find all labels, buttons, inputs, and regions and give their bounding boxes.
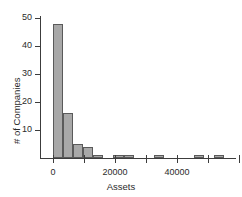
y-axis-tick [35,18,40,19]
x-axis-tick [146,155,147,163]
y-axis-line [40,16,41,158]
x-axis-line [40,158,236,159]
plot-area: 102030405002000040000Assets# of Companie… [0,0,242,197]
x-axis-tick [208,155,209,163]
x-axis-tick-label: 20000 [90,168,140,177]
x-axis-title: Assets [0,182,242,192]
histogram-chart: 102030405002000040000Assets# of Companie… [0,0,242,197]
histogram-bar [53,24,63,158]
x-axis-tick-label: 0 [28,168,78,177]
x-axis-tick-label: 40000 [152,168,202,177]
y-axis-tick-label: 40 [6,41,32,50]
histogram-bar [73,144,83,158]
y-axis-tick [35,130,40,131]
y-axis-tick [35,46,40,47]
x-axis-tick [177,155,178,163]
x-axis-tick [84,155,85,163]
x-axis-tick [115,155,116,163]
y-axis-tick [35,74,40,75]
y-axis-title: # of Companies [12,77,22,144]
y-axis-tick [35,102,40,103]
x-axis-tick [239,155,240,163]
y-axis-tick-label: 50 [6,13,32,22]
histogram-bar [63,113,73,158]
x-axis-tick [53,155,54,163]
